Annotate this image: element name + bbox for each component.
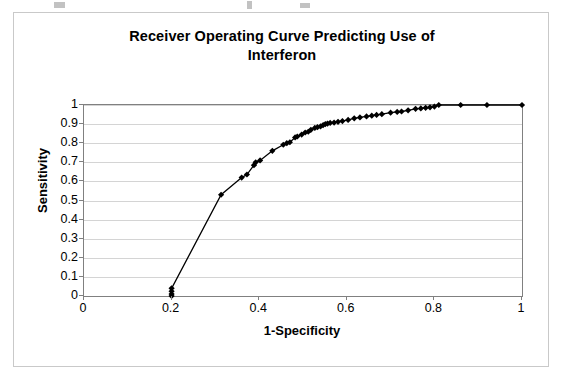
y-axis-tick-label: 0.1 xyxy=(38,270,78,282)
x-axis-tick-label: 0.2 xyxy=(151,301,191,315)
data-point-marker xyxy=(373,112,379,118)
roc-curve-line xyxy=(172,105,522,296)
chart-container: Receiver Operating Curve Predicting Use … xyxy=(13,12,549,367)
data-point-marker xyxy=(388,110,394,116)
data-point-marker xyxy=(357,114,363,120)
y-axis-tick-label: 0 xyxy=(38,289,78,301)
x-axis-tick-label: 0.6 xyxy=(326,301,366,315)
roc-curve-series xyxy=(84,105,522,296)
x-axis-tick-labels: 00.20.40.60.81 xyxy=(83,301,521,321)
x-axis-tick-mark xyxy=(171,296,172,300)
y-axis-tick-label: 0.8 xyxy=(38,136,78,148)
y-axis-tick-labels: 00.10.20.30.40.50.60.70.80.91 xyxy=(32,104,78,295)
x-axis-tick-label: 0.8 xyxy=(413,301,453,315)
y-axis-tick-label: 0.9 xyxy=(38,117,78,129)
data-point-marker xyxy=(369,113,375,119)
data-point-marker xyxy=(412,106,418,112)
y-axis-tick-label: 1 xyxy=(38,98,78,110)
data-point-marker xyxy=(398,108,404,114)
x-axis-tick-mark xyxy=(433,296,434,300)
y-axis-tick-label: 0.6 xyxy=(38,174,78,186)
data-point-marker xyxy=(418,105,424,111)
x-axis-tick-label: 0 xyxy=(63,301,103,315)
data-point-marker xyxy=(379,111,385,117)
chart-title-line-2: Interferon xyxy=(248,47,317,63)
x-axis-tick-mark xyxy=(83,296,84,300)
y-axis-tick-label: 0.5 xyxy=(38,194,78,206)
data-point-marker xyxy=(519,102,525,108)
y-axis-tick-label: 0.4 xyxy=(38,213,78,225)
x-axis-title: 1-Specificity xyxy=(83,323,521,338)
data-point-marker xyxy=(351,115,357,121)
x-axis-tick-mark xyxy=(521,296,522,300)
y-axis-tick-label: 0.7 xyxy=(38,155,78,167)
x-axis-tick-label: 1 xyxy=(501,301,541,315)
data-point-marker xyxy=(345,117,351,123)
data-point-marker xyxy=(484,102,490,108)
data-point-marker xyxy=(458,102,464,108)
data-point-marker xyxy=(405,107,411,113)
chart-title-line-1: Receiver Operating Curve Predicting Use … xyxy=(129,28,435,44)
x-axis-tick-label: 0.4 xyxy=(238,301,278,315)
data-point-marker xyxy=(363,113,369,119)
x-axis-tick-mark xyxy=(346,296,347,300)
roc-curve-markers xyxy=(169,102,526,299)
chart-title: Receiver Operating Curve Predicting Use … xyxy=(54,27,510,65)
y-axis-tick-label: 0.2 xyxy=(38,251,78,263)
data-point-marker xyxy=(339,118,345,124)
x-axis-tick-mark xyxy=(258,296,259,300)
y-axis-tick-label: 0.3 xyxy=(38,232,78,244)
plot-area xyxy=(83,104,523,297)
scan-artifact-strip xyxy=(0,0,564,11)
